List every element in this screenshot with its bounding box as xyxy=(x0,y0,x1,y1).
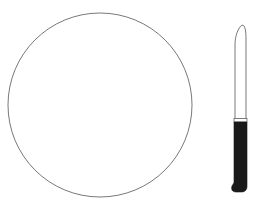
place-setting-illustration: plate knife xyxy=(0,0,256,206)
plate-icon xyxy=(8,13,192,197)
knife-icon xyxy=(232,25,247,192)
